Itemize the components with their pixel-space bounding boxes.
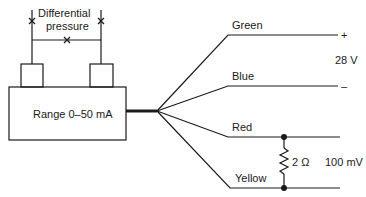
- resistor-value: 2 Ω: [292, 156, 309, 168]
- right-port: [90, 64, 113, 87]
- supply-voltage: 28 V: [335, 54, 358, 66]
- pressure-label-line2: pressure: [46, 20, 89, 32]
- red-wire-label: Red: [232, 121, 252, 133]
- blue-wire-label: Blue: [232, 70, 254, 82]
- left-port: [21, 64, 43, 87]
- transmitter-label: Range 0–50 mA: [33, 108, 113, 120]
- blue-wire: [157, 86, 338, 111]
- pressure-transmitter-diagram: Differential pressure Range 0–50 mA Gree…: [0, 0, 366, 197]
- output-voltage: 100 mV: [325, 156, 364, 168]
- supply-plus: +: [341, 29, 347, 41]
- red-junction-dot: [281, 134, 287, 140]
- pressure-label-line1: Differential: [38, 7, 90, 19]
- green-wire-label: Green: [232, 19, 263, 31]
- resistor-icon: [280, 137, 288, 188]
- yellow-wire-label: Yellow: [235, 172, 266, 184]
- yellow-junction-dot: [281, 185, 287, 191]
- supply-minus: –: [341, 80, 348, 92]
